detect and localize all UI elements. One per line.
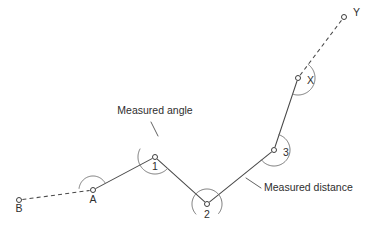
callout-label-measured-angle: Measured angle — [117, 104, 192, 116]
callout-label-measured-distance: Measured distance — [264, 181, 353, 193]
diagram-canvas: BA123XY Measured angleMeasured distance — [0, 0, 366, 228]
segment-B-A — [22, 190, 89, 199]
leader-line-measured-distance — [246, 178, 261, 188]
segment-1-2 — [158, 159, 205, 201]
survey-traverse-diagram: BA123XY Measured angleMeasured distance — [0, 0, 366, 228]
station-marker-Y — [342, 15, 347, 20]
segment-A-1 — [96, 159, 152, 189]
station-marker-X — [296, 76, 301, 81]
station-label-A: A — [89, 193, 96, 205]
station-label-B: B — [15, 202, 22, 214]
angle-arc-A — [79, 176, 105, 188]
station-label-X: X — [307, 74, 314, 86]
station-label-3: 3 — [283, 146, 289, 158]
leader-line-measured-angle — [151, 122, 158, 136]
callout-leaders-group — [151, 122, 261, 188]
station-marker-2 — [205, 202, 210, 207]
station-marker-A — [91, 188, 96, 193]
station-label-1: 1 — [152, 160, 158, 172]
station-label-2: 2 — [204, 208, 210, 220]
station-marker-3 — [272, 148, 277, 153]
station-label-Y: Y — [353, 6, 360, 18]
segment-3-X — [275, 81, 297, 147]
segment-X-Y — [300, 20, 342, 76]
callout-labels-group: Measured angleMeasured distance — [117, 104, 353, 193]
station-marker-1 — [153, 155, 158, 160]
